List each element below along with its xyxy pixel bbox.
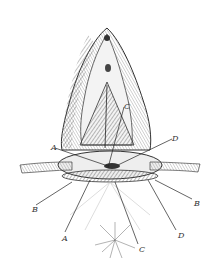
figure-label: B [32, 206, 38, 214]
figure-label: A [51, 144, 57, 152]
figure-label: A [62, 235, 68, 243]
figure-label: D [178, 232, 184, 240]
figure-label: B [194, 200, 200, 208]
figure-label: C [124, 103, 130, 111]
figure-label: D [172, 135, 178, 143]
figure-label: C [139, 246, 145, 254]
